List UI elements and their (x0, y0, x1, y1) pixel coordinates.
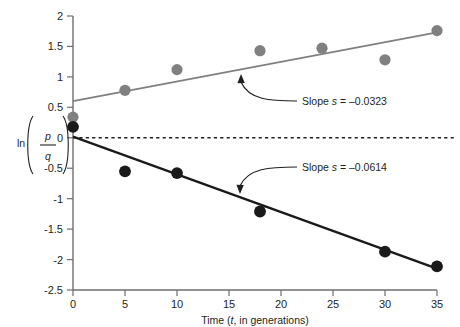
x-axis-title-after: , in generations) (233, 314, 308, 326)
x-tick-label-0: 0 (70, 298, 76, 310)
data-point (379, 54, 390, 65)
slope-lower-annotation: Slope s = –0.0614 (236, 161, 387, 194)
x-axis-ticks (73, 290, 437, 296)
arrowhead-up-icon (237, 74, 244, 83)
x-tick-label-10: 10 (171, 298, 183, 310)
y-tick-label-0: 0 (57, 132, 63, 144)
slope-upper-label: Slope s = –0.0323 (302, 95, 387, 107)
paren-left-icon (28, 116, 33, 174)
x-tick-label-25: 25 (327, 298, 339, 310)
slope-lower-label: Slope s = –0.0614 (302, 161, 387, 173)
data-point (254, 45, 265, 56)
data-point (379, 246, 391, 258)
upper-series-markers (67, 25, 442, 123)
plot-area: 2 1.5 1 0.5 0 -0.5 -1 -1.5 -2 -2.5 0 5 1… (0, 0, 460, 327)
leader-curve-lower (240, 167, 297, 186)
data-point (119, 85, 130, 96)
x-tick-label-30: 30 (379, 298, 391, 310)
data-point (171, 64, 182, 75)
chart-figure: 2 1.5 1 0.5 0 -0.5 -1 -1.5 -2 -2.5 0 5 1… (0, 0, 460, 327)
y-tick-label-neg2p5: -2.5 (44, 284, 63, 296)
x-tick-label-5: 5 (122, 298, 128, 310)
data-point (171, 167, 183, 179)
y-axis-title-ln: ln (17, 137, 25, 149)
x-tick-label-35: 35 (431, 298, 443, 310)
y-tick-label-neg2: -2 (53, 254, 63, 266)
x-tick-label-15: 15 (223, 298, 235, 310)
y-tick-label-neg0p5: -0.5 (44, 162, 63, 174)
leader-curve-upper (241, 82, 297, 101)
data-point (431, 260, 443, 272)
y-tick-label-0p5: 0.5 (48, 101, 63, 113)
arrowhead-down-icon (236, 185, 243, 194)
lower-series-markers (67, 121, 443, 272)
y-axis-title-denominator: q (45, 150, 51, 162)
y-tick-label-1p5: 1.5 (48, 40, 63, 52)
y-tick-label-neg1: -1 (53, 193, 63, 205)
x-tick-label-20: 20 (275, 298, 287, 310)
paren-right-icon (63, 116, 68, 174)
data-point (67, 121, 79, 133)
y-axis-title-numerator: p (44, 130, 51, 142)
data-point (316, 43, 327, 54)
y-tick-label-1: 1 (57, 71, 63, 83)
y-tick-label-2: 2 (57, 10, 63, 22)
slope-upper-annotation: Slope s = –0.0323 (237, 74, 387, 107)
data-point (431, 25, 442, 36)
x-axis-title: Time (t, in generations) (201, 314, 309, 326)
x-axis-title-before: Time ( (201, 314, 231, 326)
data-point (254, 206, 266, 218)
y-tick-label-neg1p5: -1.5 (44, 223, 63, 235)
data-point (119, 165, 131, 177)
